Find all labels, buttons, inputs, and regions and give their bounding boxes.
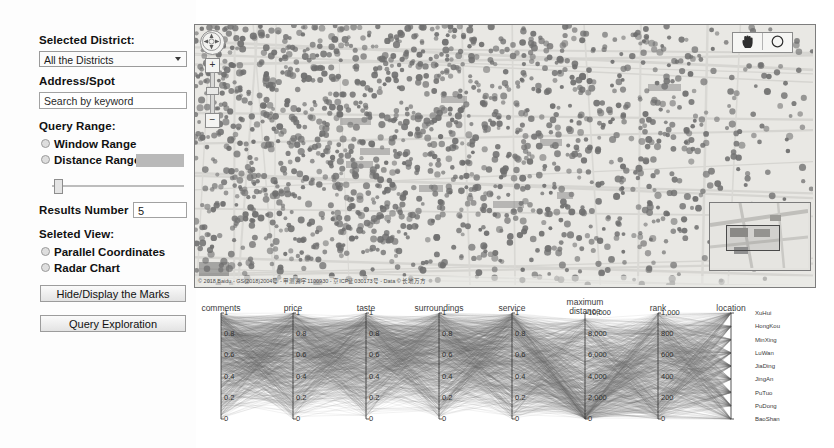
pc-axis-title-service[interactable]: service [470, 304, 554, 313]
distance-range-label: Distance Range [54, 154, 140, 166]
pc-tick-maximum_distance-0: 10,000 [588, 308, 611, 317]
distance-range-swatch [136, 154, 184, 167]
address-spot-label: Address/Spot [39, 75, 115, 87]
pc-tick-rank-3: 400 [661, 372, 674, 381]
distance-slider-track[interactable] [52, 185, 184, 187]
radio-icon[interactable] [41, 247, 50, 256]
pc-location-label-XuHui: XuHui [755, 310, 771, 316]
hand-tool-icon[interactable] [733, 33, 763, 50]
zoom-in-button[interactable]: + [205, 58, 220, 73]
pc-tick-price-5: 0 [296, 414, 300, 423]
pc-tick-comments-4: 0.2 [224, 393, 234, 402]
district-select[interactable]: All the Districts [39, 51, 187, 67]
pc-tick-surroundings-5: 0 [442, 414, 446, 423]
application-root: Selected District: All the Districts Add… [0, 0, 834, 448]
pc-tick-price-3: 0.4 [296, 372, 306, 381]
zoom-out-button[interactable]: − [205, 113, 220, 128]
pc-location-label-MinXing: MinXing [755, 337, 777, 343]
selected-district-label: Selected District: [39, 34, 135, 46]
radio-parallel-coordinates[interactable]: Parallel Coordinates [41, 246, 165, 258]
map-view[interactable]: + − [194, 24, 816, 288]
parallel-coordinates-chart[interactable]: commentspricetastesurroundingsservicemax… [194, 290, 834, 440]
pc-tick-taste-5: 0 [369, 414, 373, 423]
pc-axis-title-maximum_distance[interactable]: maximum distance [543, 298, 627, 315]
radio-radar-chart[interactable]: Radar Chart [41, 262, 120, 274]
selected-view-label: Seleted View: [39, 228, 114, 240]
pc-tick-maximum_distance-4: 2,000 [588, 393, 607, 402]
pc-tick-price-0: 1 [296, 308, 300, 317]
radar-chart-label: Radar Chart [54, 262, 120, 274]
pc-location-label-JiaDing: JiaDing [755, 363, 775, 369]
pc-tick-maximum_distance-2: 6,000 [588, 350, 607, 359]
pc-tick-price-2: 0.6 [296, 350, 306, 359]
pc-tick-price-1: 0.8 [296, 329, 306, 338]
circle-select-tool-icon[interactable] [763, 33, 792, 50]
pc-tick-taste-3: 0.4 [369, 372, 379, 381]
pc-tick-comments-5: 0 [224, 414, 228, 423]
pc-tick-comments-0: 1 [224, 308, 228, 317]
pc-tick-maximum_distance-5: 0 [588, 414, 592, 423]
parallel-coordinates-label: Parallel Coordinates [54, 246, 165, 258]
pc-tick-service-5: 0 [515, 414, 519, 423]
radio-window-range[interactable]: Window Range [41, 138, 136, 150]
query-exploration-button[interactable]: Query Exploration [40, 315, 186, 332]
pc-tick-comments-1: 0.8 [224, 329, 234, 338]
pc-axis-title-surroundings[interactable]: surroundings [397, 304, 481, 313]
pc-location-label-PuDong: PuDong [755, 403, 777, 409]
pc-tick-surroundings-3: 0.4 [442, 372, 452, 381]
radio-distance-range[interactable]: Distance Range [41, 154, 140, 166]
pc-axis-title-price[interactable]: price [251, 304, 335, 313]
minimap-overview[interactable] [709, 202, 811, 271]
pc-tick-rank-4: 200 [661, 393, 674, 402]
pc-tick-rank-0: 1,000 [661, 308, 680, 317]
pc-tick-price-4: 0.2 [296, 393, 306, 402]
pc-tick-surroundings-1: 0.8 [442, 329, 452, 338]
pc-tick-rank-5: 0 [661, 414, 665, 423]
query-range-label: Query Range: [39, 120, 116, 132]
pc-location-label-BaoShan: BaoShan [755, 416, 780, 422]
compass-pan-control[interactable] [200, 30, 225, 55]
radio-icon[interactable] [41, 263, 50, 272]
pc-tick-comments-2: 0.6 [224, 350, 234, 359]
zoom-slider-thumb[interactable] [206, 87, 219, 95]
pc-location-label-HongKou: HongKou [755, 323, 780, 329]
pc-tick-service-3: 0.4 [515, 372, 525, 381]
pc-location-label-JingAn: JingAn [755, 376, 773, 382]
pc-location-label-PuTuo: PuTuo [755, 390, 772, 396]
results-number-label: Results Number [39, 204, 129, 216]
radio-icon[interactable] [41, 139, 50, 148]
pc-tick-taste-4: 0.2 [369, 393, 379, 402]
pc-location-label-LuWan: LuWan [755, 350, 774, 356]
pc-tick-service-1: 0.8 [515, 329, 525, 338]
pc-tick-maximum_distance-1: 8,000 [588, 329, 607, 338]
pc-tick-rank-2: 600 [661, 350, 674, 359]
map-logo [199, 262, 229, 276]
pc-tick-taste-1: 0.8 [369, 329, 379, 338]
search-input[interactable]: Search by keyword [39, 92, 187, 109]
pc-axis-title-rank[interactable]: rank [616, 304, 700, 313]
pc-tick-service-4: 0.2 [515, 393, 525, 402]
map-attribution: © 2018 Baidu - GS(2018)2004号 - 甲测资字11009… [195, 276, 815, 287]
window-range-label: Window Range [54, 138, 136, 150]
pc-tick-surroundings-4: 0.2 [442, 393, 452, 402]
results-number-input[interactable]: 5 [133, 202, 187, 218]
control-panel: Selected District: All the Districts Add… [0, 0, 196, 448]
pc-tick-surroundings-2: 0.6 [442, 350, 452, 359]
pc-tick-taste-0: 1 [369, 308, 373, 317]
distance-slider-handle[interactable] [54, 179, 63, 194]
pc-tick-surroundings-0: 1 [442, 308, 446, 317]
pc-tick-comments-3: 0.4 [224, 372, 234, 381]
radio-icon[interactable] [41, 155, 50, 164]
pc-tick-service-2: 0.6 [515, 350, 525, 359]
pc-axis-title-taste[interactable]: taste [324, 304, 408, 313]
hide-display-marks-button[interactable]: Hide/Display the Marks [40, 285, 186, 302]
pc-tick-service-0: 1 [515, 308, 519, 317]
pc-tick-taste-2: 0.6 [369, 350, 379, 359]
pc-tick-maximum_distance-3: 4,000 [588, 372, 607, 381]
chevron-down-icon[interactable] [175, 57, 181, 61]
pc-tick-rank-1: 800 [661, 329, 674, 338]
map-tool-group [732, 32, 793, 53]
minimap-viewport-box[interactable] [726, 225, 780, 251]
